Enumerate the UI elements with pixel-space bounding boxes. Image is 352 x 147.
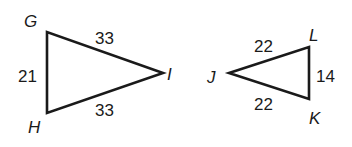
side-length-lk: 14 <box>316 67 335 86</box>
side-length-gh: 21 <box>18 67 37 86</box>
diagram-canvas: G H I 21 33 33 J L K 22 22 14 <box>0 0 352 147</box>
vertex-label-g: G <box>24 12 37 31</box>
triangles-svg: G H I 21 33 33 J L K 22 22 14 <box>0 0 352 147</box>
side-length-gi: 33 <box>95 29 114 48</box>
vertex-label-h: H <box>28 118 41 137</box>
vertex-label-l: L <box>309 26 318 45</box>
vertex-label-i: I <box>167 65 172 84</box>
side-length-jl: 22 <box>254 37 273 56</box>
side-length-hi: 33 <box>95 101 114 120</box>
vertex-label-j: J <box>206 68 216 87</box>
side-length-jk: 22 <box>254 95 273 114</box>
vertex-label-k: K <box>309 109 321 128</box>
